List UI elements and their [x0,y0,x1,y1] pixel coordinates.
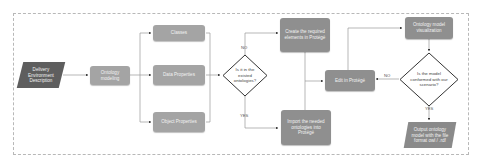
process-edit-protege[interactable]: Edit in Protégé [325,70,375,91]
create-elements-label: Create the required elements in Protégé [283,29,327,40]
input-delivery-environment[interactable]: Delivery Environment Description [17,62,65,88]
process-import-ontologies[interactable]: Import the needed ontologies into Protég… [281,110,331,145]
data-properties-label: Data Properties [163,72,195,78]
edge-label-yes-conform: YES [425,106,433,111]
process-visualization[interactable]: Ontology model visualization [405,17,453,39]
output-ontology-model[interactable]: Output ontology model with the file form… [404,122,457,148]
edge-label-no-existing: NO [241,45,247,50]
process-classes[interactable]: Classes [153,25,205,41]
output-label: Output ontology model with the file form… [409,127,451,144]
process-data-properties[interactable]: Data Properties [153,65,205,85]
classes-label: Classes [171,30,187,36]
input-label: Delivery Environment Description [23,67,59,84]
process-object-properties[interactable]: Object Properties [153,112,205,132]
edit-protege-label: Edit in Protégé [335,78,365,84]
edge-label-yes-existing: YES [240,113,248,118]
edge-label-no-conform: NO [384,73,390,78]
import-ontologies-label: Import the needed ontologies into Protég… [284,119,328,136]
decision-conform-label: Is the model conformed with our scenario… [409,62,449,97]
object-properties-label: Object Properties [161,119,197,125]
visualization-label: Ontology model visualization [408,22,450,33]
process-create-elements[interactable]: Create the required elements in Protégé [280,18,330,52]
ontology-modeling-label: Ontology modeling [93,70,127,81]
decision-existing-label: Is it in the existed ontologies? [230,62,260,89]
process-ontology-modeling[interactable]: Ontology modeling [90,66,130,85]
